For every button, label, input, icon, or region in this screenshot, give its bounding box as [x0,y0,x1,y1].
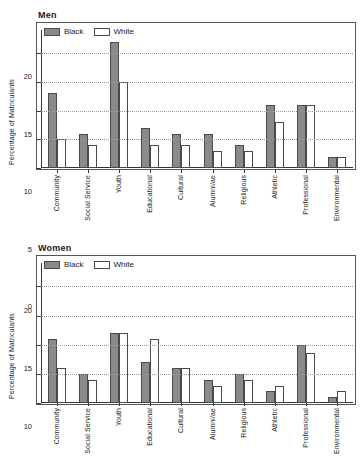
x-axis-label: Environmental [333,408,340,454]
panel-title-women: Women [38,243,71,253]
x-axis-tick [88,403,89,406]
x-axis-labels-men: CommunitySocial ServiceYouthEducationalC… [41,170,353,230]
bar-black-environmental [328,157,337,169]
panel-men: Men Percentage of Matriculants Black Whi… [0,0,364,235]
y-axis-tick-label: 20 [24,72,32,81]
x-axis-tick [275,403,276,406]
x-axis-tick [306,170,307,173]
y-axis-tick: 15 [37,82,41,83]
gridline [41,82,353,83]
bar-white-professional [306,105,315,168]
x-axis-label: Religious [240,408,247,438]
x-axis-label: Youth [115,408,122,426]
panel-women: Women Percentage of Matriculants Black W… [0,235,364,470]
x-axis-tick [244,170,245,173]
bar-white-athletic [275,122,284,168]
bar-white-environmental [337,157,346,169]
axes-men: 05101520 [41,30,353,168]
x-axis-label: Social Service [84,408,91,454]
bar-white-educational [150,339,159,403]
bar-white-youth [119,333,128,403]
x-axis-tick [306,403,307,406]
bar-white-youth [119,82,128,168]
bar-black-social-service [79,374,88,403]
bar-white-religious [244,151,253,168]
x-axis-tick [119,170,120,173]
y-axis-tick: 20 [37,53,41,54]
y-axis-tick: 5 [37,374,41,375]
y-axis-tick: 10 [37,111,41,112]
x-axis-label: Educational [146,408,153,446]
axes-women: 05101520 [41,263,353,403]
x-axis-tick [57,403,58,406]
bar-black-community [48,339,57,403]
y-axis-tick-label: 20 [24,305,32,314]
bar-black-youth [110,42,119,169]
bar-white-religious [244,380,253,403]
x-axis-label: Environmental [333,175,340,221]
x-axis-tick [337,403,338,406]
x-axis-label: Community [53,175,60,211]
bar-white-community [57,139,66,168]
x-axis-label: Professional [302,408,309,448]
y-axis-tick-label: 10 [24,422,32,431]
x-axis-label: Alumni/ae [209,175,216,207]
x-axis-tick [88,170,89,173]
bar-white-professional [306,353,315,403]
y-axis-tick: 20 [37,286,41,287]
bar-white-alumni-ae [213,151,222,168]
gridline [41,345,353,346]
bar-black-educational [141,362,150,403]
x-axis-label: Athletic [271,408,278,432]
y-axis-tick: 15 [37,316,41,317]
x-axis-label: Educational [146,175,153,213]
y-axis-tick: 5 [37,139,41,140]
x-axis-tick [244,403,245,406]
gridline [41,374,353,375]
x-axis-tick [181,403,182,406]
x-axis-tick [57,170,58,173]
y-axis-tick-label: 15 [24,129,32,138]
x-axis-tick [213,170,214,173]
figure-matriculant-activities: Men Percentage of Matriculants Black Whi… [0,0,364,470]
bar-white-educational [150,145,159,168]
y-axis-label-women: Percentage of Matriculants [8,277,15,399]
x-axis-label: Youth [115,175,122,193]
y-axis-tick: 10 [37,345,41,346]
bar-black-professional [297,105,306,168]
bar-black-youth [110,333,119,403]
x-axis-tick [213,403,214,406]
x-axis-label: Alumni/ae [209,408,216,440]
x-axis-tick [275,170,276,173]
x-axis-label: Religious [240,175,247,205]
x-axis-tick [181,170,182,173]
gridline [41,53,353,54]
x-axis-labels-women: CommunitySocial ServiceYouthEducationalC… [41,403,353,465]
bars-women [41,263,353,403]
x-axis-tick [337,170,338,173]
x-axis-label: Cultural [177,408,184,433]
gridline [41,316,353,317]
bar-black-alumni-ae [204,380,213,403]
x-axis-tick [150,403,151,406]
x-axis-label: Community [53,408,60,444]
x-axis-label: Athletic [271,175,278,199]
bar-black-athletic [266,391,275,403]
bar-white-cultural [181,145,190,168]
bar-white-social-service [88,380,97,403]
bar-white-alumni-ae [213,386,222,404]
bar-black-religious [235,374,244,403]
y-axis-tick-label: 15 [24,364,32,373]
bar-black-educational [141,128,150,168]
x-axis-tick [150,170,151,173]
x-axis-label: Cultural [177,175,184,200]
bar-black-religious [235,145,244,168]
bar-white-athletic [275,386,284,404]
y-axis-tick: 0 [37,168,41,169]
bars-men [41,30,353,168]
bar-white-social-service [88,145,97,168]
y-axis-label-men: Percentage of Matriculants [8,45,15,165]
y-axis-tick-label: 10 [24,187,32,196]
gridline [41,139,353,140]
x-axis-label: Professional [302,175,309,215]
